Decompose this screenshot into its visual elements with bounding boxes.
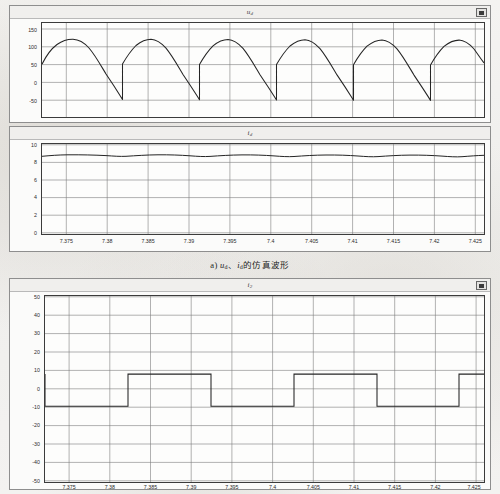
xtick-id-10: 7.425 bbox=[463, 238, 487, 244]
ytick-i2-20: 20 bbox=[16, 349, 40, 355]
ytick-i2-30: 30 bbox=[16, 330, 40, 336]
xtick-i2-4: 7.395 bbox=[220, 484, 244, 490]
xtick-i2-2: 7.385 bbox=[139, 484, 163, 490]
xtick-i2-5: 7.4 bbox=[261, 484, 285, 490]
maximize-glyph-ud bbox=[479, 11, 484, 15]
gridlines-id bbox=[42, 144, 484, 234]
xtick-i2-6: 7.405 bbox=[301, 484, 325, 490]
ytick-ud-100: 100 bbox=[16, 44, 37, 50]
ytick-i2-neg10: -10 bbox=[16, 404, 40, 410]
ytick-id-8: 8 bbox=[16, 159, 37, 165]
ytick-id-10: 10 bbox=[16, 142, 37, 148]
xtick-i2-0: 7.375 bbox=[57, 484, 81, 490]
plot-svg-i2 bbox=[45, 296, 484, 482]
scope-window-id[interactable]: id 10 8 6 4 2 0 bbox=[9, 126, 491, 252]
xtick-id-1: 7.38 bbox=[95, 238, 119, 244]
ytick-id-6: 6 bbox=[16, 177, 37, 183]
maximize-icon-ud[interactable] bbox=[476, 8, 487, 17]
xtick-id-2: 7.385 bbox=[136, 238, 160, 244]
trace-i2 bbox=[45, 374, 484, 406]
ytick-ud-50: 50 bbox=[16, 62, 37, 68]
ytick-i2-50: 50 bbox=[16, 294, 40, 300]
scope-title-ud-subscript: d bbox=[251, 11, 254, 16]
ytick-id-4: 4 bbox=[16, 194, 37, 200]
xtick-i2-9: 7.42 bbox=[423, 484, 447, 490]
plot-svg-ud bbox=[42, 23, 484, 117]
ytick-ud-neg50: -50 bbox=[16, 98, 37, 104]
figure-caption: a) ud、id的仿真波形 bbox=[0, 258, 500, 270]
xtick-i2-8: 7.415 bbox=[383, 484, 407, 490]
figure-page: ud 150 100 50 0 -50 bbox=[0, 0, 500, 494]
ytick-i2-neg40: -40 bbox=[16, 459, 40, 465]
ytick-i2-0: 0 bbox=[16, 386, 40, 392]
xtick-id-3: 7.39 bbox=[177, 238, 201, 244]
caption-separator: 、 bbox=[228, 260, 237, 270]
ytick-i2-40: 40 bbox=[16, 312, 40, 318]
plot-area-i2 bbox=[44, 295, 485, 483]
ytick-id-2: 2 bbox=[16, 212, 37, 218]
xtick-id-0: 7.375 bbox=[54, 238, 78, 244]
ytick-ud-0: 0 bbox=[16, 80, 37, 86]
ytick-i2-neg20: -20 bbox=[16, 422, 40, 428]
ytick-i2-neg30: -30 bbox=[16, 441, 40, 447]
plot-area-id bbox=[41, 143, 485, 235]
gridlines-i2 bbox=[45, 296, 484, 482]
xtick-id-6: 7.405 bbox=[300, 238, 324, 244]
trace-ud bbox=[42, 39, 484, 100]
caption-prefix: a) bbox=[210, 260, 220, 270]
trace-id bbox=[42, 155, 484, 157]
scope-title-id-subscript: d bbox=[250, 132, 253, 137]
xtick-id-8: 7.415 bbox=[382, 238, 406, 244]
maximize-icon-i2[interactable] bbox=[476, 281, 487, 290]
scope-window-ud[interactable]: ud 150 100 50 0 -50 bbox=[9, 5, 491, 123]
scope-title-id: id bbox=[10, 128, 490, 140]
scope-title-i2: i2 bbox=[10, 280, 490, 292]
scope-title-ud: ud bbox=[10, 7, 490, 19]
xtick-i2-10: 7.425 bbox=[462, 484, 486, 490]
scope-title-i2-subscript: 2 bbox=[250, 284, 253, 289]
xtick-i2-1: 7.38 bbox=[98, 484, 122, 490]
plot-svg-id bbox=[42, 144, 484, 234]
xtick-id-5: 7.4 bbox=[259, 238, 283, 244]
maximize-glyph-i2 bbox=[479, 284, 484, 288]
gridlines-ud bbox=[42, 23, 484, 117]
xtick-id-7: 7.41 bbox=[341, 238, 365, 244]
ytick-id-0: 0 bbox=[16, 230, 37, 236]
xtick-id-4: 7.395 bbox=[218, 238, 242, 244]
caption-suffix: 的仿真波形 bbox=[243, 260, 290, 270]
ytick-ud-150: 150 bbox=[16, 27, 37, 33]
xtick-i2-7: 7.41 bbox=[342, 484, 366, 490]
plot-area-ud bbox=[41, 22, 485, 118]
xtick-id-9: 7.42 bbox=[422, 238, 446, 244]
xtick-i2-3: 7.39 bbox=[179, 484, 203, 490]
ytick-i2-10: 10 bbox=[16, 367, 40, 373]
scope-window-i2[interactable]: i2 50 40 30 20 10 0 -10 -20 -30 -40 -50 bbox=[9, 278, 491, 490]
ytick-i2-neg50: -50 bbox=[16, 478, 40, 484]
